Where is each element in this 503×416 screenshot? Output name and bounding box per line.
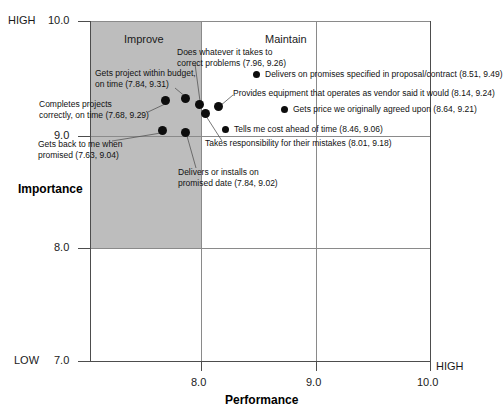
y-tick-label-10: 10.0: [48, 14, 69, 26]
callout-tells-me-cost-ahead-of-time: Tells me cost ahead of time (8.46, 9.06): [234, 124, 383, 135]
data-point-delivers-or-installs-on-promised-date[interactable]: [181, 128, 190, 137]
data-point-delivers-on-promises-specified[interactable]: [253, 71, 260, 78]
data-point-provides-equipment-operates-as-vendor-said[interactable]: [214, 102, 223, 111]
x-tick-label-8: 8.0: [191, 376, 206, 388]
x-tickmark-8: [201, 361, 202, 371]
y-tickmark-9: [78, 136, 90, 137]
data-point-completes-projects-correctly-on-time[interactable]: [161, 96, 170, 105]
data-point-takes-responsibility-for-their-mistakes[interactable]: [201, 109, 210, 118]
gridline-y-9: [90, 136, 431, 137]
gridline-y-8: [90, 248, 431, 249]
y-tick-label-8: 8.0: [54, 241, 69, 253]
x-tick-label-10: 10.0: [417, 376, 438, 388]
data-point-tells-me-cost-ahead-of-time[interactable]: [222, 126, 229, 133]
x-tick-label-9: 9.0: [306, 376, 321, 388]
callout-gets-back-to-me-when-promised: Gets back to me when promised (7.63, 9.0…: [38, 139, 123, 160]
y-tickmark-10: [78, 21, 90, 22]
callout-delivers-or-installs-on-promised-date: Delivers or installs on promised date (7…: [178, 167, 278, 188]
gridline-x-8: [201, 21, 202, 362]
quadrant-label-maintain: Maintain: [265, 33, 307, 45]
x-axis-high-label: HIGH: [436, 360, 464, 372]
x-tickmark-9: [316, 361, 317, 371]
data-point-gets-back-to-me-when-promised[interactable]: [158, 126, 167, 135]
y-tick-label-7: 7.0: [54, 354, 69, 366]
y-axis-low-label: LOW: [14, 354, 39, 366]
x-tickmark-10: [430, 361, 431, 371]
y-axis-high-label: HIGH: [8, 14, 36, 26]
x-axis-title: Performance: [225, 393, 298, 407]
callout-delivers-on-promises-specified: Delivers on promises specified in propos…: [265, 69, 503, 80]
data-point-gets-price-we-originally-agreed-upon[interactable]: [281, 106, 288, 113]
data-point-does-whatever-it-takes-correct-problems[interactable]: [195, 100, 204, 109]
callout-takes-responsibility-for-mistakes: Takes responsibility for their mistakes …: [205, 138, 392, 149]
callout-does-whatever-it-takes: Does whatever it takes to correct proble…: [177, 47, 286, 68]
callout-gets-price-we-originally-agreed-upon: Gets price we originally agreed upon (8.…: [293, 104, 477, 115]
x-axis-line: [90, 361, 431, 362]
quadrant-label-improve: Improve: [124, 33, 164, 45]
callout-completes-projects-correctly: Completes projects correctly, on time (7…: [39, 99, 149, 120]
y-tickmark-7: [78, 361, 90, 362]
gridline-y-10: [90, 21, 431, 22]
y-axis-title: Importance: [18, 182, 83, 196]
callout-provides-equipment-operates-as-vendor: Provides equipment that operates as vend…: [233, 88, 495, 99]
callout-gets-project-within-budget: Gets project within budget, on time (7.8…: [95, 68, 196, 89]
y-axis-line: [90, 21, 91, 362]
y-tickmark-8: [78, 248, 90, 249]
data-point-gets-project-within-budget-on-time[interactable]: [181, 94, 190, 103]
